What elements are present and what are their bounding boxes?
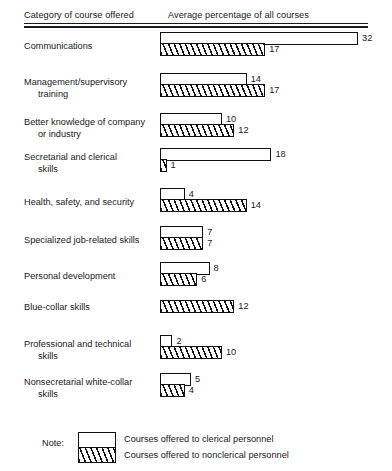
- nonclerical-value-label: 4: [189, 385, 194, 396]
- category-label-line: Personal development: [24, 271, 156, 283]
- clerical-value-label: 18: [275, 149, 285, 160]
- category-label-line: Management/supervisory: [24, 77, 156, 89]
- legend-label-clerical: Courses offered to clerical personnel: [124, 434, 273, 445]
- nonclerical-value-label: 10: [226, 347, 236, 358]
- legend-swatch: [78, 432, 116, 463]
- legend-note-label: Note:: [42, 438, 64, 448]
- nonclerical-bar: [160, 43, 265, 56]
- category-label-line: Communications: [24, 41, 156, 53]
- nonclerical-bar: [160, 124, 234, 137]
- nonclerical-bar: [160, 346, 222, 359]
- category-label-line: skills: [24, 351, 156, 363]
- nonclerical-bar: [160, 384, 185, 397]
- clerical-value-label: 7: [207, 227, 212, 238]
- nonclerical-bar: [160, 84, 265, 97]
- category-label-line: Blue-collar skills: [24, 302, 156, 314]
- category-label: Personal development: [24, 271, 156, 283]
- category-label: Management/supervisorytraining: [24, 77, 156, 100]
- clerical-value-label: 2: [176, 336, 181, 347]
- nonclerical-value-label: 12: [238, 125, 248, 136]
- category-label: Better knowledge of companyor industry: [24, 117, 156, 140]
- category-label-line: Health, safety, and security: [24, 197, 156, 209]
- nonclerical-value-label: 1: [171, 160, 176, 171]
- nonclerical-value-label: 7: [207, 238, 212, 249]
- category-label: Blue-collar skills: [24, 302, 156, 314]
- category-label-line: Better knowledge of company: [24, 117, 156, 129]
- clerical-value-label: 8: [214, 263, 219, 274]
- category-label: Communications: [24, 41, 156, 53]
- clerical-value-label: 32: [362, 33, 372, 44]
- legend-swatch-hatched: [79, 448, 115, 462]
- plot-area: Communications3217Management/supervisory…: [0, 28, 392, 418]
- clerical-value-label: 5: [195, 374, 200, 385]
- category-label-line: or industry: [24, 129, 156, 141]
- legend-label-nonclerical: Courses offered to nonclerical personnel: [124, 450, 289, 461]
- value-column-header: Average percentage of all courses: [168, 10, 309, 21]
- category-label: Nonsecretarial white-collarskills: [24, 377, 156, 400]
- category-label: Secretarial and clericalskills: [24, 152, 156, 175]
- nonclerical-bar: [160, 199, 247, 212]
- category-label-line: Secretarial and clerical: [24, 152, 156, 164]
- category-label: Professional and technicalskills: [24, 339, 156, 362]
- nonclerical-value-label: 14: [251, 200, 261, 211]
- nonclerical-value-label: 17: [269, 85, 279, 96]
- legend-swatch-divider: [79, 447, 115, 449]
- nonclerical-bar: [160, 237, 203, 250]
- category-label-line: skills: [24, 164, 156, 176]
- chart-header: Category of course offered Average perce…: [0, 0, 392, 24]
- category-label-line: Professional and technical: [24, 339, 156, 351]
- nonclerical-bar: [160, 300, 234, 313]
- category-label-line: training: [24, 89, 156, 101]
- nonclerical-bar: [160, 159, 167, 172]
- nonclerical-value-label: 6: [201, 274, 206, 285]
- header-rule-thin: [24, 23, 368, 24]
- nonclerical-value-label: 17: [269, 44, 279, 55]
- clerical-value-label: 14: [251, 74, 261, 85]
- category-label: Specialized job-related skills: [24, 235, 156, 247]
- category-column-header: Category of course offered: [24, 10, 134, 21]
- category-label-line: skills: [24, 389, 156, 401]
- bar-chart: Category of course offered Average perce…: [0, 0, 392, 471]
- category-label-line: Nonsecretarial white-collar: [24, 377, 156, 389]
- clerical-value-label: 4: [189, 189, 194, 200]
- category-label: Health, safety, and security: [24, 197, 156, 209]
- clerical-bar: [160, 148, 271, 161]
- category-label-line: Specialized job-related skills: [24, 235, 156, 247]
- chart-legend: Note: Courses offered to clerical person…: [0, 428, 392, 471]
- nonclerical-value-label: 12: [238, 301, 248, 312]
- nonclerical-bar: [160, 273, 197, 286]
- clerical-value-label: 10: [226, 114, 236, 125]
